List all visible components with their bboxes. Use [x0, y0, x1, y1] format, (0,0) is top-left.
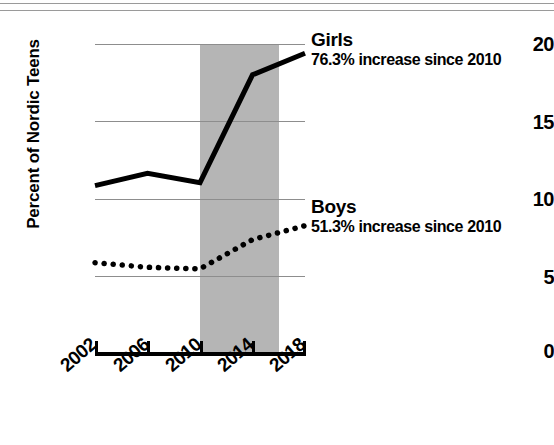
chart-figure: Percent of Nordic Teens 20 15 10 5 0 200…	[0, 0, 554, 445]
annotation-girls-increase: 76.3% increase since 2010	[311, 51, 501, 69]
annotation-boys-increase: 51.3% increase since 2010	[311, 218, 501, 236]
legend-label-boys: Boys	[311, 196, 356, 218]
series-line-boys	[95, 226, 305, 269]
series-line-girls	[95, 53, 305, 185]
legend-label-girls: Girls	[311, 29, 353, 51]
